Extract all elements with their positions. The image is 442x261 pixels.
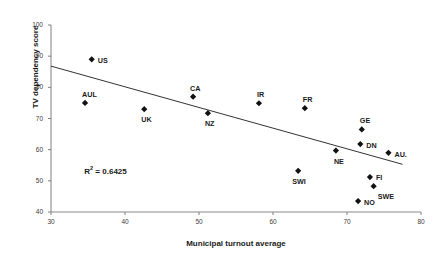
x-axis-title: Municipal turnout average <box>51 239 421 248</box>
x-tick-label: 50 <box>187 218 211 225</box>
data-point-label: US <box>98 56 108 65</box>
data-point-marker <box>82 100 88 106</box>
x-tick-label: 60 <box>261 218 285 225</box>
data-point-marker <box>357 141 363 147</box>
x-tick-label: 80 <box>409 218 433 225</box>
trend-line <box>51 66 403 164</box>
data-point-marker <box>367 174 373 180</box>
data-point-marker <box>359 126 365 132</box>
data-point-label: DN <box>366 141 376 150</box>
data-point-marker <box>190 94 196 100</box>
y-axis-title: TV dependency score <box>31 26 40 109</box>
scatter-chart-figure: 405060708090100 304050607080 USAULUKCANZ… <box>0 0 442 261</box>
y-tick-label: 50 <box>21 177 43 184</box>
data-point-label: NZ <box>205 119 215 128</box>
data-point-label: FI <box>376 173 382 182</box>
data-point-marker <box>371 183 377 189</box>
x-tick-label: 30 <box>39 218 63 225</box>
data-markers <box>82 56 392 204</box>
data-point-marker <box>295 168 301 174</box>
data-point-marker <box>333 148 339 154</box>
r-squared-annotation: R2 = 0.6425 <box>84 165 126 176</box>
regression-line <box>51 66 403 164</box>
x-tick-label: 70 <box>335 218 359 225</box>
data-point-label: UK <box>141 115 151 124</box>
y-axis-title-wrap: TV dependency score <box>24 2 42 132</box>
data-point-marker <box>355 198 361 204</box>
data-point-marker <box>141 106 147 112</box>
data-point-label: IR <box>257 90 264 99</box>
data-point-marker <box>385 150 391 156</box>
data-point-label: NE <box>334 157 344 166</box>
y-tick-label: 60 <box>21 146 43 153</box>
data-point-label: CA <box>190 84 200 93</box>
data-point-label: SWE <box>378 192 394 201</box>
data-point-label: NO <box>364 198 375 207</box>
data-point-label: SWI <box>292 177 306 186</box>
x-tick-label: 40 <box>113 218 137 225</box>
data-point-label: GE <box>360 116 370 125</box>
data-point-label: AU. <box>394 150 406 159</box>
data-point-marker <box>89 56 95 62</box>
plot-canvas <box>0 0 442 261</box>
y-tick-label: 40 <box>21 208 43 215</box>
data-point-marker <box>256 100 262 106</box>
data-point-label: AUL <box>82 90 97 99</box>
data-point-marker <box>302 105 308 111</box>
data-point-label: FR <box>303 95 313 104</box>
